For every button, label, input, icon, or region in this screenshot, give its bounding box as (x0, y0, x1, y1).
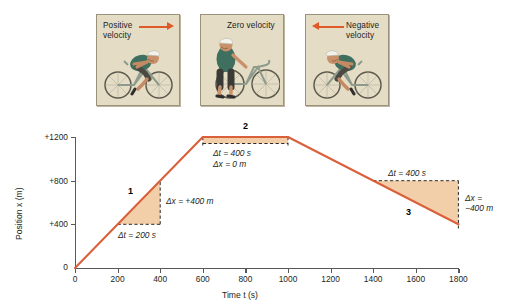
right-arrow-icon (139, 22, 174, 31)
cyclist-riding-right-illustration (101, 41, 177, 103)
panel-negative-velocity: Negative velocity (305, 14, 389, 106)
cyclist-standing-illustration (206, 27, 280, 103)
figure-root: Positive velocity (0, 0, 516, 308)
segment-3-number: 3 (406, 207, 411, 217)
panel-positive-label: Positive velocity (103, 21, 132, 40)
left-arrow-icon (312, 22, 344, 31)
segment-1-dt-label: Δt = 200 s (118, 230, 156, 240)
cyclist-riding-left-illustration (309, 41, 385, 103)
segment-3-dt-label: Δt = 400 s (388, 168, 426, 178)
panel-zero-label: Zero velocity (227, 21, 275, 31)
panel-positive-velocity: Positive velocity (96, 14, 180, 106)
plot-area (0, 110, 516, 308)
position-time-chart: +1200 +800 +400 0 0 200 400 600 800 1000… (0, 110, 516, 308)
segment-1-number: 1 (128, 186, 133, 196)
segment-2-number: 2 (243, 121, 248, 131)
panel-zero-velocity: Zero velocity (200, 14, 284, 106)
segment-3-dx-label: Δx = −400 m (465, 193, 493, 214)
panel-negative-label: Negative velocity (346, 21, 379, 40)
position-curve (75, 137, 458, 268)
segment-2-dt-label: Δt = 400 s (213, 148, 251, 158)
segment-2-dx-label: Δx = 0 m (213, 159, 246, 169)
segment-1-dx-label: Δx = +400 m (166, 196, 214, 206)
